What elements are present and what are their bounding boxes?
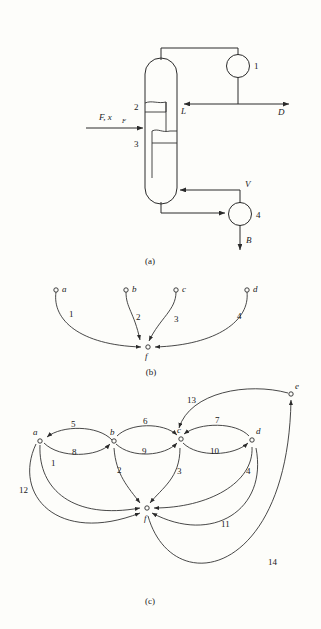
section-3-label: 3 [134, 139, 139, 149]
panel-b-node-d-label: d [253, 284, 258, 294]
panel-c-node-d-label: d [256, 426, 261, 436]
panel-c-node-d [250, 438, 254, 442]
panel-b-node-a-label: a [62, 284, 67, 294]
panel-b: a b c d f 1 2 3 4 (b) [54, 284, 258, 377]
vapor-label: V [245, 179, 252, 189]
reboiler-label: 4 [256, 210, 261, 220]
column-internal-weir-lower [152, 131, 177, 143]
panel-c-edge-11-label: 11 [221, 519, 230, 529]
panel-b-node-f-label: f [145, 351, 149, 361]
panel-b-node-f [146, 345, 150, 349]
panel-c-node-e [289, 392, 293, 396]
reboiler-unit [229, 203, 252, 226]
panel-b-node-a [54, 288, 58, 292]
column-internal-tray-upper [145, 102, 166, 112]
panel-c-edge-9-label: 9 [142, 446, 147, 456]
panel-c-node-a-label: a [33, 427, 38, 437]
panel-c-edge-9 [116, 443, 177, 454]
panel-b-edge-1-label: 1 [69, 309, 74, 319]
panel-b-edge-1 [56, 292, 141, 347]
panel-c-edge-8-label: 8 [72, 447, 77, 457]
vapor-return-line [213, 190, 240, 203]
panel-c-node-f-label: f [144, 513, 148, 523]
panel-c-edge-8 [44, 443, 110, 454]
panel-c-node-f [145, 506, 149, 510]
panel-b-caption: (b) [146, 367, 157, 377]
panel-c-node-c [179, 437, 183, 441]
panel-c-edge-10-label: 10 [210, 446, 220, 456]
condenser-label: 1 [254, 61, 259, 71]
section-2-label: 2 [134, 102, 139, 112]
panel-b-node-b-label: b [132, 284, 137, 294]
bottoms-label: B [246, 235, 252, 245]
panel-b-node-c-label: c [182, 284, 186, 294]
figure-root: 1 L D F, x F 2 3 V 4 B (a) [0, 0, 321, 629]
panel-c-edge-6 [117, 426, 177, 436]
panel-b-node-b [124, 288, 128, 292]
panel-c-edge-1-label: 1 [51, 458, 56, 468]
figure-svg: 1 L D F, x F 2 3 V 4 B (a) [0, 0, 321, 629]
panel-b-edge-2-label: 2 [136, 312, 141, 322]
panel-c-node-b [112, 439, 116, 443]
reflux-label: L [180, 106, 186, 116]
panel-c-node-a [38, 439, 42, 443]
panel-c-edge-1 [40, 445, 140, 511]
panel-c: a b c d e f 1 2 3 4 5 6 7 8 9 10 11 12 1… [19, 381, 299, 606]
panel-b-edge-3 [149, 292, 176, 341]
panel-b-node-c [174, 288, 178, 292]
panel-c-edge-5-label: 5 [71, 419, 76, 429]
panel-b-edge-4-label: 4 [237, 311, 242, 321]
panel-c-node-c-label: c [177, 425, 181, 435]
feed-label: F, x [98, 112, 112, 122]
panel-c-edge-2-label: 2 [117, 465, 122, 475]
panel-c-node-b-label: b [110, 427, 115, 437]
panel-c-edge-6-label: 6 [143, 416, 148, 426]
panel-c-edge-12-label: 12 [19, 485, 28, 495]
panel-c-edge-11 [152, 448, 258, 525]
panel-c-caption: (c) [145, 596, 155, 606]
panel-c-edge-4-label: 4 [246, 466, 251, 476]
column-internal-tray-lower [152, 130, 177, 131]
panel-b-edge-3-label: 3 [174, 314, 179, 324]
panel-c-edge-3 [150, 448, 180, 503]
panel-c-edge-5 [47, 428, 112, 440]
condenser-unit [227, 55, 250, 78]
panel-c-node-e-label: e [295, 381, 299, 391]
distillate-label: D [277, 107, 285, 117]
panel-c-edge-4 [154, 447, 252, 508]
panel-c-edge-7-label: 7 [215, 415, 220, 425]
overhead-vapor-line [161, 48, 238, 60]
bottoms-to-reboiler-line [161, 202, 225, 213]
panel-a: 1 L D F, x F 2 3 V 4 B (a) [86, 48, 289, 266]
panel-c-edge-2 [114, 448, 140, 503]
panel-c-edge-12 [30, 444, 140, 523]
panel-b-edge-4 [155, 292, 247, 347]
panel-a-caption: (a) [145, 256, 155, 266]
panel-c-edge-7 [184, 425, 249, 436]
panel-c-edge-13-label: 13 [187, 395, 197, 405]
feed-label-subscript: F [121, 117, 127, 124]
panel-c-edge-14-label: 14 [268, 557, 278, 567]
panel-b-node-d [245, 288, 249, 292]
panel-c-edge-3-label: 3 [177, 466, 182, 476]
